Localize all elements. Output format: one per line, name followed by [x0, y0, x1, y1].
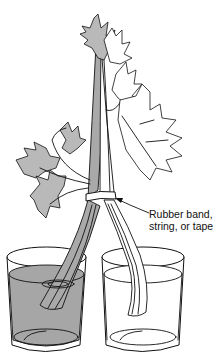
left-leaf-cluster — [16, 122, 90, 218]
celery-experiment-illustration — [0, 0, 215, 361]
callout-label: Rubber band, string, or tape — [149, 208, 213, 232]
right-leaf-cluster — [112, 62, 182, 180]
top-leaf — [80, 14, 132, 64]
